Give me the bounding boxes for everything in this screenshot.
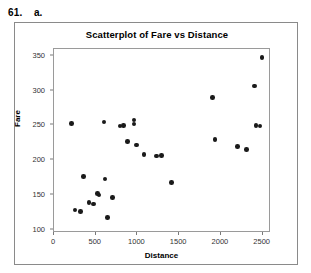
problem-part-label: a. [34,7,42,18]
data-point [81,174,86,179]
data-point [169,180,174,185]
plot-area [53,48,270,232]
data-point [235,144,240,149]
data-point [125,139,130,144]
problem-number: 61. [8,7,23,18]
data-point [97,193,102,198]
data-point [102,120,107,125]
data-point [260,55,265,60]
data-point [110,195,115,200]
data-point [154,154,159,159]
data-point [134,143,139,148]
x-tick-mark [136,232,137,235]
data-point [73,208,78,213]
x-tick-mark [95,232,96,235]
x-tick-label: 2000 [212,237,229,246]
data-point [132,122,137,127]
x-tick-mark [178,232,179,235]
x-tick-label: 1000 [128,237,145,246]
x-tick-mark [262,232,263,235]
data-point [91,202,96,207]
x-tick-mark [53,232,54,235]
x-tick-label: 2500 [253,237,270,246]
x-tick-label: 1500 [170,237,187,246]
data-point [121,123,126,128]
data-point [252,84,257,89]
data-point [258,124,263,129]
figure-container: Scatterplot of Fare vs Distance Fare Dis… [14,22,298,265]
x-tick-mark [220,232,221,235]
data-point [142,152,147,157]
data-point [105,215,110,220]
data-point [213,137,218,142]
data-point [78,209,83,214]
x-tick-label: 500 [88,237,101,246]
data-point [103,177,108,182]
data-point [159,153,164,158]
data-point [244,147,249,152]
data-point [210,95,215,100]
x-tick-label: 0 [51,237,55,246]
data-point [69,121,74,126]
